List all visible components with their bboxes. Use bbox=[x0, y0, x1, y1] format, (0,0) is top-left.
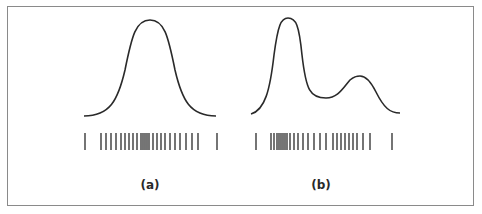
panel-label-a: (a) bbox=[140, 178, 159, 192]
panel-label-b: (b) bbox=[311, 178, 331, 192]
rug-ticks-b bbox=[256, 133, 392, 150]
unimodal-density-curve bbox=[84, 20, 216, 116]
figure-canvas bbox=[0, 0, 482, 214]
rug-ticks-a bbox=[85, 133, 217, 150]
bimodal-density-curve bbox=[251, 18, 400, 114]
